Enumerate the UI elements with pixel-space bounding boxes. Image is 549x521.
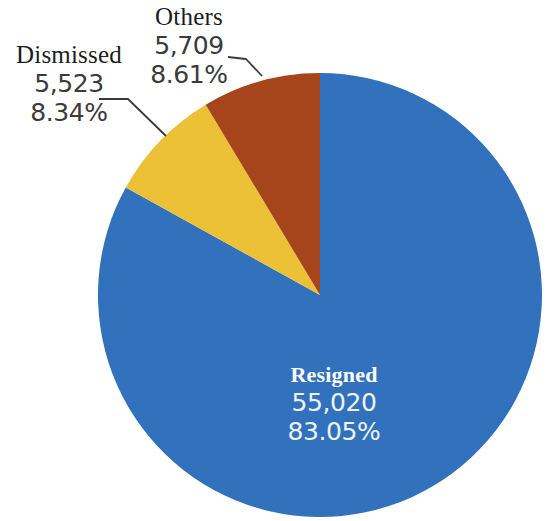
- pie-chart: Others 5,709 8.61% Dismissed 5,523 8.34%…: [0, 0, 549, 521]
- slice-label-resigned-name: Resigned: [258, 362, 410, 388]
- slice-label-resigned-value: 55,020: [258, 388, 410, 418]
- slice-label-others-percent: 8.61%: [137, 60, 241, 89]
- slice-label-dismissed-percent: 8.34%: [2, 98, 136, 127]
- slice-label-dismissed-name: Dismissed: [2, 40, 136, 69]
- slice-label-resigned-percent: 83.05%: [258, 417, 410, 447]
- slice-label-others-value: 5,709: [137, 31, 241, 60]
- slice-label-resigned: Resigned 55,020 83.05%: [258, 362, 410, 447]
- slice-label-dismissed-value: 5,523: [2, 69, 136, 98]
- slice-label-dismissed: Dismissed 5,523 8.34%: [2, 40, 136, 127]
- slice-label-others-name: Others: [137, 2, 241, 31]
- slice-label-others: Others 5,709 8.61%: [137, 2, 241, 89]
